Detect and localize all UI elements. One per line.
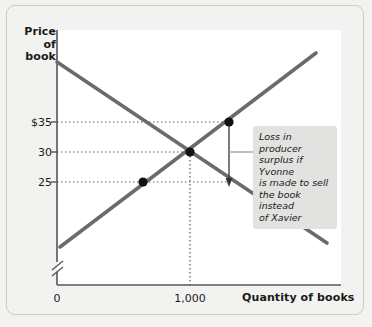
annotation-box: Loss in producer surplus if Yvonne is ma…: [253, 126, 337, 229]
annotation-line-4: the book instead: [259, 189, 331, 212]
annotation-line-2: surplus if Yvonne: [259, 154, 331, 177]
chart-figure: Price of book Quantity of books $35 30 2…: [0, 0, 372, 327]
annotation-line-5: of Xavier: [259, 212, 331, 224]
data-point-X: [138, 177, 147, 186]
annotation-line-3: is made to sell: [259, 177, 331, 189]
data-point-Y: [224, 117, 233, 126]
data-point-E: [185, 147, 194, 156]
annotation-line-1: Loss in producer: [259, 131, 331, 154]
